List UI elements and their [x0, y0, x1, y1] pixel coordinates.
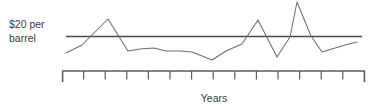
oil-price-line-chart: $20 per barrel Years — [0, 0, 382, 108]
chart-background — [0, 0, 382, 108]
x-axis-title: Years — [201, 92, 227, 104]
reference-label-line-2: barrel — [9, 32, 36, 44]
reference-label-line-1: $20 per — [9, 18, 45, 30]
